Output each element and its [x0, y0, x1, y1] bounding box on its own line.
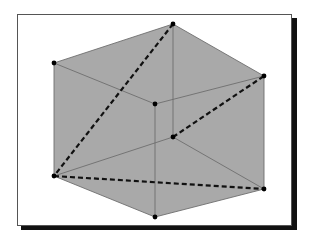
vertex-bottom — [153, 215, 158, 220]
vertex-back-inner — [171, 135, 176, 140]
vertex-lower-right — [262, 187, 267, 192]
vertex-upper-left — [52, 61, 57, 66]
cube-diagram — [0, 0, 309, 239]
vertex-top — [171, 22, 176, 27]
vertex-upper-right — [262, 74, 267, 79]
vertex-lower-left — [52, 174, 57, 179]
vertex-front-center — [153, 102, 158, 107]
